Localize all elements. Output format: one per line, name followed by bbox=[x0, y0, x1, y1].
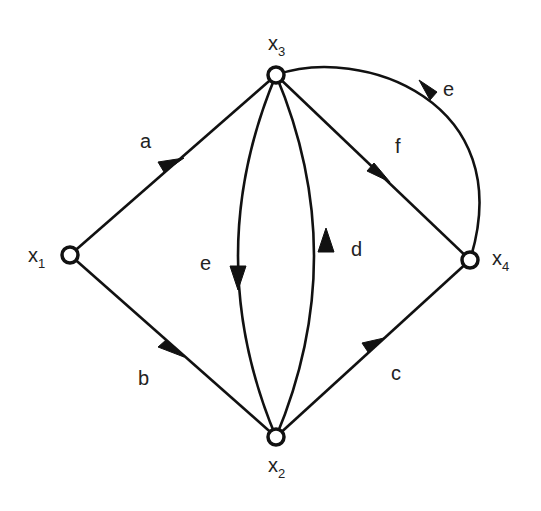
node-label-x2: x2 bbox=[268, 454, 285, 481]
graph-diagram: x3 x1 x4 x2 a b c d e f e bbox=[0, 0, 541, 511]
arrow-a-icon bbox=[158, 158, 184, 172]
edge-label-c: c bbox=[391, 362, 401, 384]
arrow-e-down-icon bbox=[230, 266, 246, 290]
arrow-e-up-icon bbox=[419, 80, 437, 100]
node-label-x3: x3 bbox=[268, 32, 285, 59]
edge-label-b: b bbox=[138, 367, 149, 389]
node-x4 bbox=[462, 252, 478, 268]
node-label-x1: x1 bbox=[28, 244, 45, 271]
edge-label-f: f bbox=[395, 135, 401, 157]
edge-label-a: a bbox=[140, 130, 152, 152]
node-label-x4: x4 bbox=[492, 247, 509, 274]
edge-d bbox=[276, 75, 314, 437]
node-x2 bbox=[268, 429, 284, 445]
arrow-d-up-icon bbox=[318, 228, 334, 252]
edge-label-d: d bbox=[351, 238, 362, 260]
node-x3 bbox=[268, 67, 284, 83]
graph-svg: x3 x1 x4 x2 a b c d e f e bbox=[0, 0, 541, 511]
node-x1 bbox=[62, 247, 78, 263]
edge-label-e-left: e bbox=[200, 252, 211, 274]
edge-e-left bbox=[238, 75, 276, 437]
edge-label-e-right: e bbox=[443, 78, 454, 100]
